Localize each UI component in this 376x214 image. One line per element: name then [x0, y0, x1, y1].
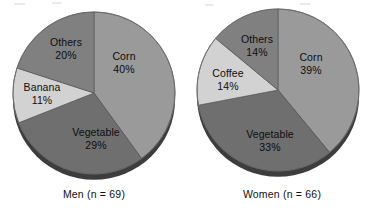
pie-chart-men: Corn 40% Vegetable 29% Banana 11% Others…	[0, 0, 188, 214]
pie-chart-women: Corn 39% Vegetable 33% Coffee 14% Others…	[188, 0, 376, 214]
pie-men-plot-area: Corn 40% Vegetable 29% Banana 11% Others…	[0, 0, 188, 190]
pie-men-svg	[0, 0, 188, 190]
pie-chart-figure: Corn 40% Vegetable 29% Banana 11% Others…	[0, 0, 376, 214]
pie-women-plot-area: Corn 39% Vegetable 33% Coffee 14% Others…	[188, 0, 376, 190]
pie-women-svg	[188, 0, 376, 190]
pie-women-caption: Women (n = 66)	[188, 188, 376, 200]
pie-men-caption: Men (n = 69)	[0, 188, 188, 200]
